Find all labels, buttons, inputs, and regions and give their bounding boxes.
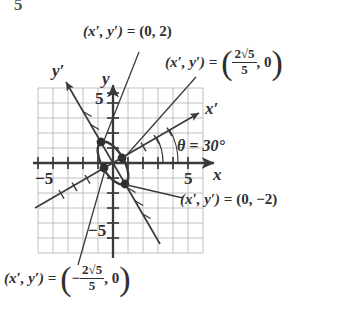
annotation-vertex-left-comma: , [104, 270, 112, 286]
fraction-numerator-2: 2√5 [80, 263, 104, 279]
annotation-vertex-right: (x′, y′) = (2√55, 0) [165, 48, 283, 79]
annotation-vertex-right-second: 0 [264, 54, 272, 70]
paren-close-icon: ) [272, 48, 283, 77]
paren-open-icon-2: ( [60, 264, 71, 293]
theta-angle-label: θ = 30° [177, 138, 225, 154]
x-axis-label: x [213, 166, 222, 183]
paren-open-icon: ( [221, 48, 232, 77]
fraction-2root5-over-5-neg: 2√55 [80, 263, 104, 294]
fraction-denominator-2: 5 [80, 279, 104, 294]
annotation-vertex-left-second: 0 [112, 270, 120, 286]
y-axis-tick-label-negative: −5 [88, 222, 106, 239]
annotation-vertex-top-prefix: (x′, y′) = [83, 23, 135, 39]
annotation-vertex-left-prefix: (x′, y′) = [4, 270, 56, 286]
y-axis-label: y [102, 70, 110, 87]
annotation-vertex-right-prefix: (x′, y′) = [165, 54, 217, 70]
vertex-dot-left [100, 164, 109, 173]
annotation-vertex-left-sign: − [71, 270, 80, 286]
leader-left [78, 170, 105, 265]
fraction-numerator: 2√5 [232, 47, 256, 63]
x-axis-tick-label-positive: 5 [184, 170, 193, 187]
annotation-vertex-bottom-right-prefix: (x′, y′) = [180, 191, 232, 207]
fraction-denominator: 5 [232, 63, 256, 78]
x-prime-axis-label: x′ [205, 100, 218, 117]
annotation-vertex-top-value: (0, 2) [139, 23, 172, 39]
theta-angle-text: θ = 30° [177, 137, 225, 154]
coordinate-grid [38, 88, 203, 253]
annotation-vertex-bottom-right: (x′, y′) = (0, −2) [180, 192, 277, 207]
annotation-vertex-left: (x′, y′) = (−2√55, 0) [4, 264, 131, 295]
fraction-2root5-over-5: 2√55 [232, 47, 256, 78]
vertex-dot-right [118, 154, 127, 163]
leader-bottom-right [127, 185, 183, 198]
annotation-vertex-bottom-right-value: (0, −2) [236, 191, 277, 207]
y-axis-tick-label-positive: 5 [95, 90, 104, 107]
y-prime-axis-label: y′ [52, 62, 64, 79]
x-axis-tick-label-negative: −5 [35, 170, 53, 187]
vertex-dot-bottom [121, 180, 130, 189]
annotation-vertex-right-comma: , [257, 54, 265, 70]
leader-top [103, 52, 139, 143]
annotation-vertex-top: (x′, y′) = (0, 2) [83, 24, 172, 39]
paren-close-icon-2: ) [119, 264, 130, 293]
